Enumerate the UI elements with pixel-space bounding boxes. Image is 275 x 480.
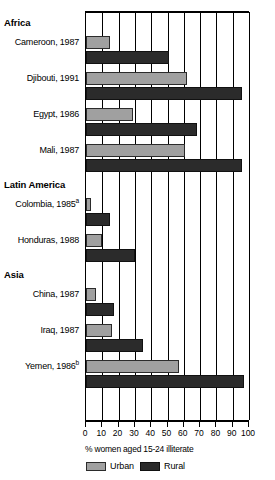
legend-label-rural: Rural [164, 461, 185, 471]
tick-10 [101, 421, 102, 427]
tick-label-40: 40 [145, 428, 154, 438]
bar-urban [86, 144, 185, 157]
tick-label-30: 30 [129, 428, 138, 438]
tick-label-50: 50 [162, 428, 171, 438]
tick-label-60: 60 [178, 428, 187, 438]
bar-urban [86, 36, 110, 49]
bar-urban [86, 324, 112, 337]
tick-label-80: 80 [211, 428, 220, 438]
row-label: Yemen, 1986b [25, 361, 79, 371]
tick-label-90: 90 [227, 428, 236, 438]
bar-rural [86, 213, 110, 226]
tick-label-10: 10 [97, 428, 106, 438]
tick-40 [150, 421, 151, 427]
legend-item-urban: Urban [86, 461, 134, 471]
axis-ticks [85, 421, 249, 427]
bar-urban [86, 288, 96, 301]
legend-swatch-rural [140, 462, 160, 471]
plot-area [85, 12, 250, 420]
bar-urban [86, 72, 187, 85]
footnote-marker: b [76, 359, 79, 366]
tick-30 [134, 421, 135, 427]
group-title-asia: Asia [4, 269, 24, 280]
legend-item-rural: Rural [140, 461, 185, 471]
tick-80 [215, 421, 216, 427]
bar-rural [86, 303, 114, 316]
chart-legend: Urban Rural [86, 461, 185, 471]
bar-rural [86, 249, 135, 262]
tick-70 [199, 421, 200, 427]
bar-rural [86, 159, 242, 172]
row-label: Iraq, 1987 [40, 325, 79, 335]
row-label: Mali, 1987 [39, 145, 79, 155]
illiteracy-bar-chart: AfricaCameroon, 1987Djibouti, 1991Egypt,… [0, 0, 275, 480]
row-label: Cameroon, 1987 [15, 37, 79, 47]
tick-50 [167, 421, 168, 427]
row-label: Egypt, 1986 [33, 109, 79, 119]
tick-label-0: 0 [83, 428, 88, 438]
axis-tick-labels: 0102030405060708090100 [0, 428, 275, 440]
tick-90 [232, 421, 233, 427]
tick-100 [248, 421, 249, 427]
legend-label-urban: Urban [110, 461, 134, 471]
bar-urban [86, 234, 102, 247]
bar-rural [86, 339, 143, 352]
bar-urban [86, 360, 179, 373]
row-label: China, 1987 [33, 289, 79, 299]
tick-0 [85, 421, 86, 427]
legend-swatch-urban [86, 462, 106, 471]
bar-rural [86, 87, 242, 100]
x-axis-title: % women aged 15-24 illiterate [85, 444, 194, 454]
group-title-latin-america: Latin America [4, 179, 65, 190]
row-label: Honduras, 1988 [18, 235, 79, 245]
category-labels: AfricaCameroon, 1987Djibouti, 1991Egypt,… [0, 0, 82, 420]
bar-rural [86, 51, 169, 64]
bar-urban [86, 198, 91, 211]
group-title-africa: Africa [4, 17, 30, 28]
tick-20 [118, 421, 119, 427]
bar-rows [86, 12, 249, 420]
bar-rural [86, 375, 244, 388]
row-label: Djibouti, 1991 [27, 73, 79, 83]
tick-label-100: 100 [241, 428, 255, 438]
bar-rural [86, 123, 197, 136]
tick-label-20: 20 [113, 428, 122, 438]
tick-60 [183, 421, 184, 427]
bar-urban [86, 108, 133, 121]
tick-label-70: 70 [194, 428, 203, 438]
row-label: Colombia, 1985a [15, 199, 79, 209]
footnote-marker: a [76, 197, 79, 204]
